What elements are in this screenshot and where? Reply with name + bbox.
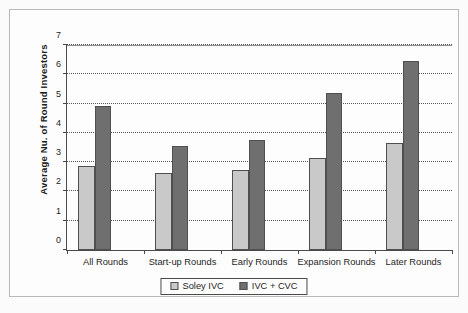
x-tick-mark xyxy=(298,250,299,254)
bar[interactable] xyxy=(386,143,403,250)
y-axis-title: Average Nu. of Round Investors xyxy=(38,25,49,215)
bar[interactable] xyxy=(249,140,266,250)
y-tick-label: 2 xyxy=(56,176,61,186)
bar[interactable] xyxy=(95,106,112,250)
bar[interactable] xyxy=(309,158,326,250)
bar[interactable] xyxy=(326,93,343,250)
x-tick-mark xyxy=(144,250,145,254)
x-tick-label: Expansion Rounds xyxy=(297,257,375,267)
bar-group: Early Rounds xyxy=(221,45,298,250)
figure-container: Average Nu. of Round Investors 01234567A… xyxy=(0,0,468,313)
y-tick-label: 4 xyxy=(56,118,61,128)
bar-group: Expansion Rounds xyxy=(298,45,375,250)
bar[interactable] xyxy=(232,170,249,250)
x-tick-label: Later Rounds xyxy=(386,257,442,267)
bar[interactable] xyxy=(403,61,420,250)
plot-area: 01234567All RoundsStart-up RoundsEarly R… xyxy=(66,45,452,251)
y-tick-label: 5 xyxy=(56,89,61,99)
x-tick-mark xyxy=(452,250,453,254)
y-tick-label: 7 xyxy=(56,30,61,40)
legend-item[interactable]: Soley IVC xyxy=(170,281,223,291)
legend-swatch-icon xyxy=(240,282,248,290)
bar-group: Start-up Rounds xyxy=(144,45,221,250)
bar[interactable] xyxy=(155,173,172,250)
legend-label: Soley IVC xyxy=(182,281,223,291)
y-tick-label: 0 xyxy=(56,235,61,245)
x-tick-mark xyxy=(67,250,68,254)
x-tick-label: Start-up Rounds xyxy=(149,257,217,267)
bar-group: Later Rounds xyxy=(375,45,452,250)
bar-group: All Rounds xyxy=(67,45,144,250)
x-tick-label: All Rounds xyxy=(83,257,128,267)
bar[interactable] xyxy=(172,146,189,250)
x-tick-mark xyxy=(375,250,376,254)
legend-item[interactable]: IVC + CVC xyxy=(240,281,298,291)
legend-swatch-icon xyxy=(170,282,178,290)
legend-label: IVC + CVC xyxy=(252,281,298,291)
bar[interactable] xyxy=(78,166,95,250)
figure-frame: Average Nu. of Round Investors 01234567A… xyxy=(9,9,459,297)
y-tick-label: 3 xyxy=(56,147,61,157)
y-tick-label: 6 xyxy=(56,59,61,69)
x-tick-label: Early Rounds xyxy=(232,257,288,267)
chart-legend: Soley IVCIVC + CVC xyxy=(160,278,307,295)
y-tick-label: 1 xyxy=(56,206,61,216)
x-tick-mark xyxy=(221,250,222,254)
